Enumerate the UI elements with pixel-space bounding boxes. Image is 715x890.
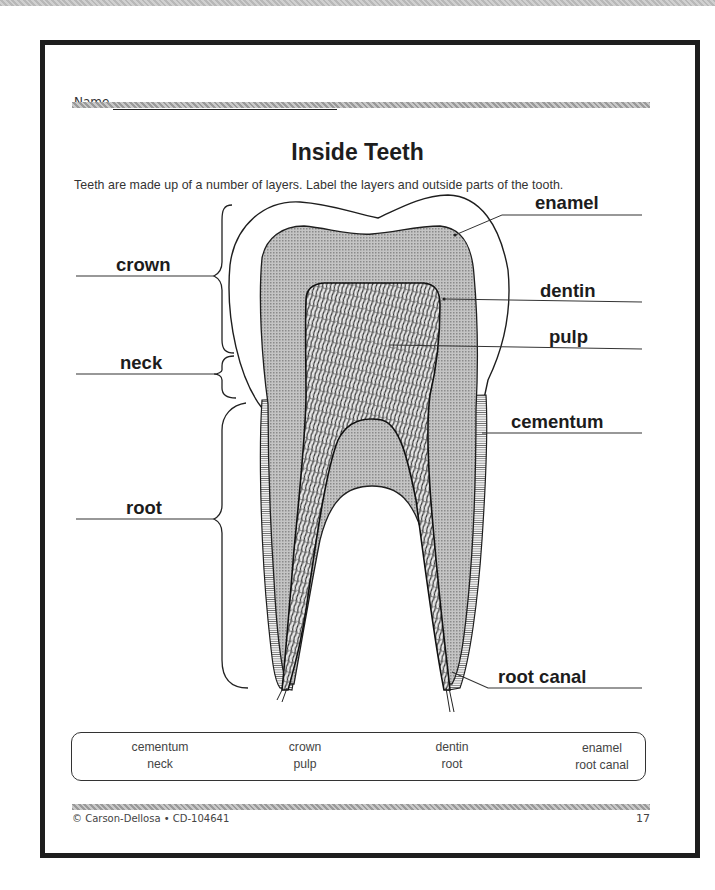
label-root: root [126,497,162,519]
label-root-canal: root canal [498,666,586,688]
word-bank-item: pulp [245,757,365,771]
label-crown: crown [116,254,170,276]
enamel-dot [453,233,456,236]
label-pulp: pulp [549,326,588,348]
dentin-dot [442,297,445,300]
word-bank-item: root canal [542,758,662,772]
footer-divider [72,804,650,810]
copyright-text: © Carson-Dellosa • CD-104641 [72,813,229,824]
word-bank-item: crown [245,740,365,754]
root-brace [214,403,248,688]
word-bank: cementum crown dentin enamel neck pulp r… [71,732,646,781]
nerve-strand-right [446,688,454,712]
label-cementum: cementum [511,411,604,433]
word-bank-item: enamel [542,741,662,755]
neck-brace [214,356,236,398]
label-enamel: enamel [535,192,599,214]
word-bank-item: dentin [392,740,512,754]
word-bank-item: neck [100,757,220,771]
word-bank-item: root [392,757,512,771]
word-bank-item: cementum [100,740,220,754]
label-dentin: dentin [540,280,596,302]
label-neck: neck [120,352,162,374]
page-number: 17 [622,812,650,825]
